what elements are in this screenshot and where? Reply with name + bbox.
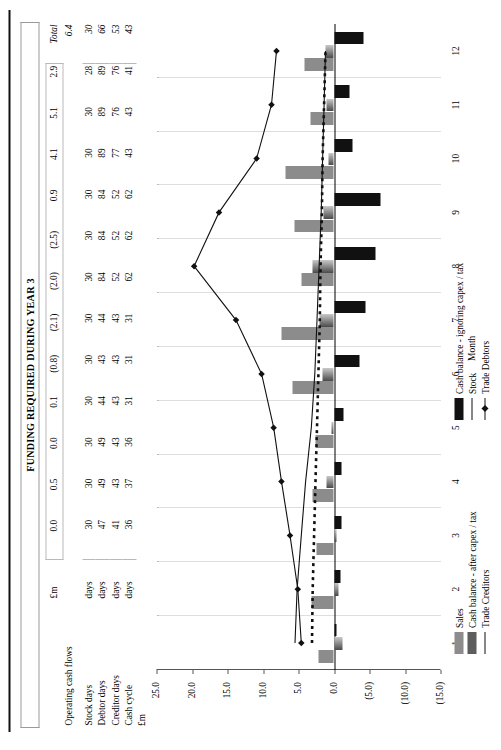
row-total-creditor-days: 53 [109, 23, 123, 64]
cell: 41 [122, 63, 136, 105]
cell: 31 [122, 312, 136, 353]
y-tick-label: 10.0 [257, 682, 267, 726]
plot-area: 123456789101112 [156, 24, 440, 670]
month-header-6: (2.1) [46, 312, 63, 353]
cell: 31 [122, 394, 136, 435]
cell: 62 [122, 229, 136, 270]
month-header-4: 0.1 [46, 394, 63, 435]
cell: 30 [82, 394, 96, 435]
month-header-11: 5.1 [46, 105, 63, 146]
chart-marker [286, 532, 293, 539]
legend-left: SalesCash balance - after capex / taxTra… [452, 511, 491, 654]
table-row: Creditor days days 41 43 43 43 43 43 52 … [109, 23, 123, 728]
cell: 30 [82, 435, 96, 476]
y-tick-label: (10.0) [399, 682, 409, 726]
chart-line [194, 51, 301, 643]
month-header-8: (2.5) [46, 229, 63, 270]
row-total-debtor-days: 66 [95, 23, 109, 64]
y-tick-label: (15.0) [434, 682, 444, 726]
cell: 84 [95, 229, 109, 270]
cell: 43 [109, 477, 123, 518]
color-swatch [454, 398, 463, 420]
cell: 89 [95, 105, 109, 146]
month-header-2: 0.5 [46, 477, 63, 518]
y-axis-title: £m [136, 714, 146, 726]
cell: 43 [122, 105, 136, 146]
cell: 76 [109, 63, 123, 105]
cell: 30 [82, 188, 96, 229]
table-row: Cash cycle days 36 37 36 31 31 31 62 62 … [122, 23, 136, 728]
cell: 89 [95, 146, 109, 187]
legend-item: Cash balance - after capex / tax [465, 511, 478, 654]
cell: 30 [82, 229, 96, 270]
x-tick-label: 10 [450, 144, 460, 174]
cell: 47 [95, 518, 109, 560]
legend-label: Cash balance - after capex / tax [467, 511, 477, 628]
line-swatch [480, 398, 489, 420]
legend-item: Trade Creditors [478, 511, 491, 654]
cell: 41 [109, 518, 123, 560]
cell: 30 [82, 477, 96, 518]
legend-label: Trade Debtors [480, 341, 490, 394]
operating-label: Operating cash flows [62, 600, 76, 727]
y-tick-label: 20.0 [186, 682, 196, 726]
cell: 52 [109, 188, 123, 229]
chart-marker [273, 48, 280, 55]
month-header-5: (0.8) [46, 353, 63, 394]
cell: 37 [122, 477, 136, 518]
report-page: FUNDING REQUIRED DURING YEAR 3 £m 0.0 0.… [0, 0, 501, 750]
cell: 31 [122, 353, 136, 394]
funding-chart: £m 25.020.015.010.05.00.0(5.0)(10.0)(15.… [150, 22, 480, 728]
cell: 30 [82, 270, 96, 311]
cell: 30 [82, 353, 96, 394]
cell: 28 [82, 63, 96, 105]
cell: 76 [109, 105, 123, 146]
row-label-stock-days: Stock days [82, 600, 96, 727]
cell: 77 [109, 146, 123, 187]
cell: 52 [109, 270, 123, 311]
cell: 43 [109, 353, 123, 394]
y-tick [405, 670, 406, 674]
color-swatch [467, 632, 476, 654]
chart-marker [232, 317, 239, 324]
page-title: FUNDING REQUIRED DURING YEAR 3 [21, 23, 39, 728]
month-header-1: 0.0 [46, 518, 63, 560]
cell: 84 [95, 270, 109, 311]
y-tick-label: (5.0) [363, 682, 373, 726]
x-tick-label: 4 [450, 467, 460, 497]
table-row: Debtor days days 47 49 49 44 43 44 84 84… [95, 23, 109, 728]
legend-label: Cash balance - ignoring capex / tax [454, 263, 464, 394]
chart-marker [278, 478, 285, 485]
header-blank [46, 600, 63, 727]
y-tick [334, 670, 335, 674]
y-tick [298, 670, 299, 674]
cell: 52 [109, 229, 123, 270]
y-tick-label: 0.0 [328, 682, 338, 726]
legend-right: Cash balance - ignoring capex / taxStock… [452, 263, 491, 420]
chart-marker [294, 586, 301, 593]
row-label-cash-cycle: Cash cycle [122, 600, 136, 727]
y-tick [192, 670, 193, 674]
cell: 84 [95, 188, 109, 229]
row-total-stock-days: 30 [82, 23, 96, 64]
month-header-12: 2.9 [46, 63, 63, 105]
unit-header: £m [46, 560, 63, 601]
cell: 44 [95, 394, 109, 435]
legend-item: Stock [465, 263, 478, 420]
row-unit-stock-days: days [82, 560, 96, 601]
cell: 43 [122, 146, 136, 187]
y-tick [227, 670, 228, 674]
x-tick-label: 12 [450, 36, 460, 66]
cell: 30 [82, 518, 96, 560]
cell: 30 [82, 105, 96, 146]
cell: 30 [82, 146, 96, 187]
cell: 43 [109, 312, 123, 353]
legend-item: Trade Debtors [478, 263, 491, 420]
row-unit-debtor-days: days [95, 560, 109, 601]
month-header-9: 0.9 [46, 188, 63, 229]
cell: 36 [122, 518, 136, 560]
line-series-group [156, 24, 440, 670]
row-label-debtor-days: Debtor days [95, 600, 109, 727]
row-unit-creditor-days: days [109, 560, 123, 601]
rotated-page-wrapper: FUNDING REQUIRED DURING YEAR 3 £m 0.0 0.… [0, 0, 501, 750]
